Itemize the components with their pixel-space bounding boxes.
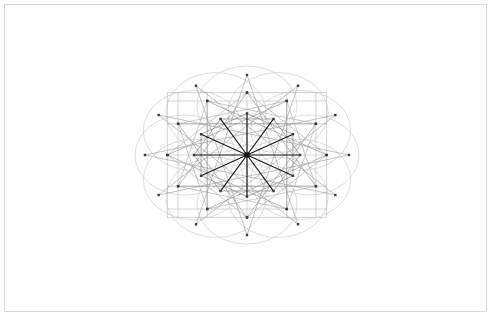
vertex-marker <box>325 154 327 156</box>
vertex-marker <box>246 74 248 76</box>
vertex-marker <box>219 190 221 192</box>
vertex-marker <box>157 114 159 116</box>
vertex-marker <box>246 195 248 197</box>
vertex-marker <box>219 118 221 120</box>
vertex-marker <box>206 100 208 102</box>
vertex-marker <box>177 123 179 125</box>
vertex-marker <box>292 133 294 135</box>
center-hub <box>244 152 249 157</box>
vertex-marker <box>195 85 197 87</box>
geometry-figure <box>0 0 493 317</box>
vertex-marker <box>315 185 317 187</box>
figure-canvas: Geometric line drawing: twelve-point sta… <box>0 0 493 317</box>
vertex-marker <box>195 223 197 225</box>
vertex-marker <box>272 190 274 192</box>
vertex-marker <box>286 208 288 210</box>
vertex-marker <box>297 223 299 225</box>
vertex-marker <box>272 118 274 120</box>
vertex-marker <box>200 133 202 135</box>
vertex-marker <box>144 154 146 156</box>
vertex-marker <box>206 208 208 210</box>
vertex-marker <box>286 100 288 102</box>
vertex-marker <box>177 185 179 187</box>
vertex-marker <box>334 114 336 116</box>
vertex-marker <box>315 123 317 125</box>
vertex-marker <box>246 216 248 218</box>
vertex-marker <box>246 91 248 93</box>
vertex-marker <box>299 154 301 156</box>
vertex-marker <box>297 85 299 87</box>
vertex-marker <box>166 154 168 156</box>
vertex-marker <box>334 194 336 196</box>
vertex-marker <box>193 154 195 156</box>
vertex-marker <box>246 112 248 114</box>
vertex-marker <box>157 194 159 196</box>
vertex-marker <box>292 175 294 177</box>
center-hub-marker <box>244 152 249 157</box>
vertex-marker <box>200 175 202 177</box>
vertex-marker <box>348 154 350 156</box>
vertex-marker <box>246 234 248 236</box>
